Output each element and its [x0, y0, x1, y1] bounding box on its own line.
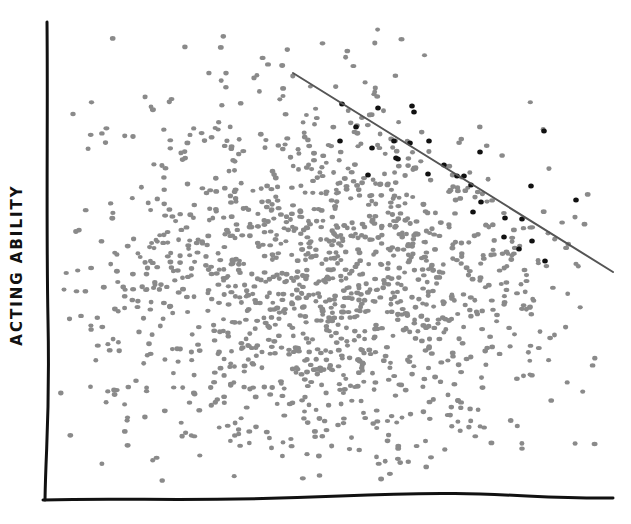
gray-dot [317, 473, 323, 477]
gray-dot [402, 173, 407, 178]
gray-dot [172, 278, 177, 282]
gray-dot [341, 373, 346, 377]
gray-dot [223, 71, 228, 76]
highlighted-dot [365, 173, 371, 178]
gray-dot [341, 288, 347, 293]
gray-dot [319, 165, 324, 169]
gray-dot [275, 402, 280, 406]
gray-dot [107, 348, 113, 353]
gray-dot [458, 405, 463, 410]
gray-dot [372, 214, 378, 218]
gray-dot [354, 183, 360, 188]
gray-dot [565, 380, 570, 384]
gray-dot [265, 62, 271, 66]
gray-dot [311, 158, 317, 162]
gray-dot [405, 358, 410, 363]
gray-dot [318, 237, 323, 242]
gray-dot [441, 330, 446, 334]
gray-dot [305, 420, 311, 425]
gray-dot [481, 253, 486, 258]
gray-dot [133, 379, 138, 383]
gray-dot [353, 232, 358, 236]
gray-dot [253, 326, 258, 331]
gray-dot [277, 97, 282, 101]
gray-dot [382, 172, 387, 177]
gray-dot [389, 188, 394, 192]
gray-dot [239, 300, 244, 305]
gray-dot [288, 155, 293, 160]
highlighted-dot [573, 198, 579, 203]
gray-dot [456, 362, 462, 367]
highlighted-dot [501, 235, 507, 240]
gray-dot [374, 408, 380, 412]
gray-dot [467, 170, 472, 174]
gray-dot [369, 193, 374, 198]
gray-dot [306, 341, 311, 345]
gray-dot [276, 206, 282, 210]
y-axis [45, 22, 49, 500]
gray-dot [351, 179, 357, 183]
gray-dot [192, 373, 197, 378]
gray-dot [275, 185, 280, 190]
gray-dot [267, 392, 273, 397]
gray-dot [508, 418, 514, 423]
gray-dot [423, 465, 429, 470]
gray-dot [162, 408, 168, 413]
gray-dot [446, 190, 452, 194]
gray-dot [270, 301, 275, 305]
gray-dot [165, 240, 170, 244]
gray-dot [162, 214, 168, 218]
gray-dot [511, 228, 517, 233]
gray-dot [120, 284, 126, 289]
gray-dot [546, 166, 551, 171]
gray-dot [359, 399, 364, 403]
gray-dot [232, 168, 237, 173]
gray-dot [222, 232, 227, 236]
gray-dot [459, 240, 465, 245]
gray-dot [229, 144, 235, 148]
gray-dot [250, 385, 256, 389]
gray-dot [391, 196, 396, 201]
gray-dot [282, 386, 287, 390]
gray-dot [426, 366, 431, 370]
gray-dot [279, 346, 284, 350]
gray-dot [280, 86, 286, 91]
gray-dot [114, 269, 120, 274]
gray-dot [245, 293, 250, 297]
gray-dot [419, 338, 425, 343]
gray-dot [262, 218, 267, 223]
gray-dot [352, 130, 358, 134]
gray-dot [431, 326, 437, 330]
gray-dot [242, 283, 247, 288]
gray-dot [236, 152, 241, 157]
gray-dot [371, 252, 376, 256]
gray-dot [286, 348, 291, 352]
gray-dot [124, 419, 129, 423]
gray-dot [372, 41, 377, 46]
gray-dot [323, 348, 328, 352]
gray-dot [244, 405, 250, 409]
gray-dot [298, 232, 303, 236]
gray-dot [355, 144, 360, 148]
gray-dot [368, 287, 373, 292]
gray-dot [163, 166, 169, 171]
gray-dot [388, 205, 393, 209]
gray-dot [158, 324, 163, 329]
gray-dot [219, 103, 224, 107]
gray-dot [341, 310, 346, 315]
gray-dot [149, 104, 154, 109]
gray-dot [352, 162, 358, 167]
gray-dot [455, 312, 460, 316]
gray-dot [313, 107, 318, 111]
gray-dot [306, 293, 311, 298]
gray-dot [312, 435, 318, 439]
gray-dot [474, 309, 479, 314]
gray-dot [354, 308, 360, 312]
gray-dot [388, 223, 393, 228]
gray-dot [459, 261, 464, 266]
gray-dot [173, 219, 178, 223]
gray-dot [217, 425, 222, 429]
gray-dot [176, 290, 182, 294]
gray-dot [310, 191, 315, 195]
gray-dot [93, 358, 98, 363]
